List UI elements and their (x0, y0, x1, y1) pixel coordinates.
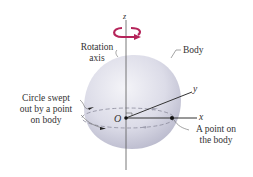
swept-circle-label-line2: out by a point (12, 104, 80, 115)
z-axis-label: z (123, 11, 126, 22)
rotation-axis-label-line2: axis (76, 53, 118, 64)
swept-circle-label-line3: on body (12, 115, 80, 126)
origin-dot (124, 116, 128, 120)
body-point-label-line1: A point on (188, 124, 244, 135)
y-axis-label: y (193, 84, 197, 95)
origin-label: O (114, 113, 121, 124)
body-point-dot (170, 116, 174, 120)
rotation-arrow-icon (114, 28, 141, 40)
body-point-label-line2: the body (188, 135, 244, 146)
diagram-canvas (0, 0, 253, 177)
rotation-axis-label-line1: Rotation (76, 42, 118, 53)
rotation-axis-label: Rotation axis (76, 42, 118, 64)
body-label: Body (183, 45, 204, 56)
body-point-label: A point on the body (188, 124, 244, 146)
swept-circle-label: Circle swept out by a point on body (12, 93, 80, 126)
x-axis-label: x (199, 112, 203, 123)
body-leader (171, 50, 181, 58)
swept-circle-label-line1: Circle swept (12, 93, 80, 104)
